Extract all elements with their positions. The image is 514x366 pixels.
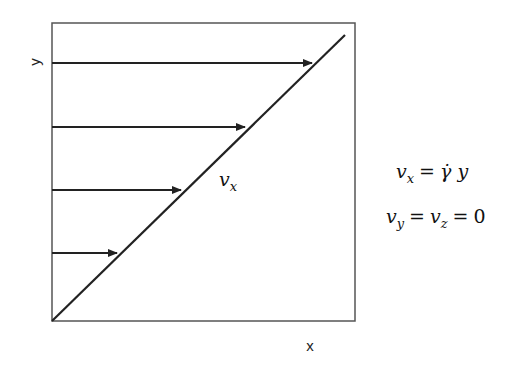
y-axis-label: y — [26, 58, 43, 66]
velocity-arrows — [52, 63, 312, 253]
shear-flow-diagram: y x vx vx=γ̇ y vy=vz=0 — [0, 0, 514, 366]
equation-vx: vx=γ̇ y — [396, 160, 468, 186]
x-axis-label: x — [306, 337, 314, 354]
profile-label: vx — [219, 168, 238, 194]
velocity-profile-line — [52, 35, 345, 321]
equation-vy-vz: vy=vz=0 — [386, 205, 486, 231]
